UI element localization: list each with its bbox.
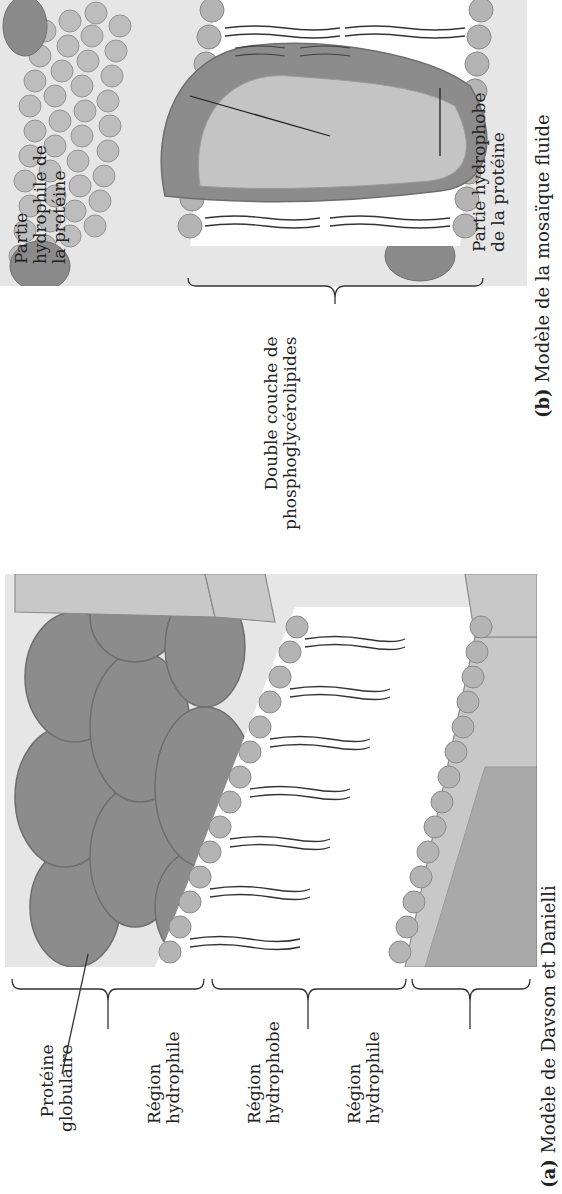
davson-danielli-membrane-drawing xyxy=(5,574,537,967)
label-bilayer: Double couche de phosphoglycérolipides xyxy=(262,336,300,530)
caption-panel-b: (b) Modèle de la mosaïque fluide xyxy=(532,114,553,418)
label-hydrophobic-part: Partie hydrophobe de la protéine xyxy=(470,93,508,252)
caption-panel-a: (a) Modèle de Davson et Danielli xyxy=(538,885,559,1188)
label-region-hydrophobe: Région hydrophobe xyxy=(245,1021,283,1124)
panel-b-illustration xyxy=(0,0,527,286)
fluid-mosaic-membrane-drawing xyxy=(0,0,527,286)
label-hydrophilic-part: Partie hydrophile de la protéine xyxy=(12,145,69,264)
label-globular-protein: Protéine globulaire xyxy=(38,1044,76,1132)
bilayer-brace xyxy=(180,274,500,304)
panel-a-illustration xyxy=(5,574,537,967)
label-region-hydrophile-bottom: Région hydrophile xyxy=(345,1031,383,1124)
figure-canvas: Protéine globulaire Région hydrophile Ré… xyxy=(0,0,562,1194)
label-region-hydrophile-top: Région hydrophile xyxy=(145,1031,183,1124)
